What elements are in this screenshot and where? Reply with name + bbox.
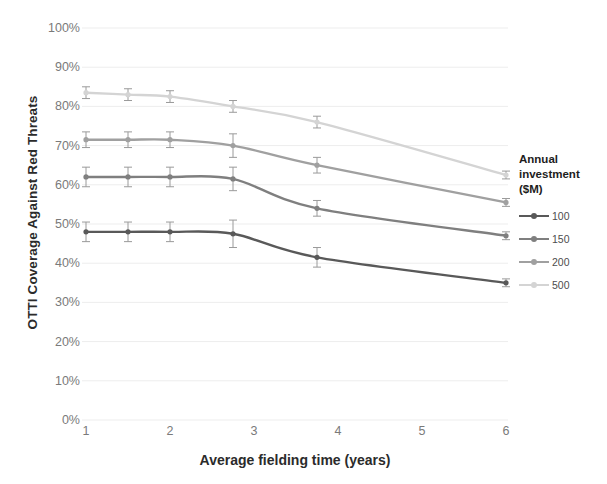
data-point bbox=[125, 229, 130, 234]
legend-item-label: 150 bbox=[549, 233, 570, 245]
legend-title-line-1: Annual bbox=[519, 152, 607, 167]
legend-marker-dot bbox=[531, 259, 537, 265]
data-point bbox=[314, 255, 319, 260]
data-point bbox=[167, 94, 172, 99]
legend-swatch bbox=[519, 256, 549, 268]
legend-item[interactable]: 200 bbox=[519, 250, 607, 273]
data-point bbox=[167, 229, 172, 234]
data-point bbox=[83, 229, 88, 234]
gridlines bbox=[82, 28, 508, 420]
series-line bbox=[86, 139, 506, 202]
data-point bbox=[230, 104, 235, 109]
series-200 bbox=[82, 132, 510, 206]
x-axis-tick-label: 5 bbox=[402, 424, 442, 438]
legend-item[interactable]: 100 bbox=[519, 204, 607, 227]
legend-swatch bbox=[519, 233, 549, 245]
line-chart: OTTI Coverage Against Red Threats 0%10%2… bbox=[0, 0, 607, 484]
legend-item-label: 200 bbox=[549, 256, 570, 268]
plot-area bbox=[0, 0, 607, 484]
legend-item[interactable]: 150 bbox=[519, 227, 607, 250]
series-100 bbox=[82, 220, 510, 287]
data-point bbox=[503, 233, 508, 238]
legend-marker-dot bbox=[531, 213, 537, 219]
legend-title-line-2: investment bbox=[519, 167, 607, 182]
data-point bbox=[503, 172, 508, 177]
data-point bbox=[230, 231, 235, 236]
data-point bbox=[83, 90, 88, 95]
legend-item-label: 100 bbox=[549, 210, 570, 222]
data-point bbox=[83, 137, 88, 142]
series-line bbox=[86, 231, 506, 282]
legend-swatch bbox=[519, 210, 549, 222]
legend-item-label: 500 bbox=[549, 279, 570, 291]
data-point bbox=[83, 174, 88, 179]
legend-marker-dot bbox=[531, 282, 537, 288]
legend-title: Annual investment ($M) bbox=[519, 152, 607, 197]
x-axis-tick-label: 1 bbox=[66, 424, 106, 438]
data-point bbox=[314, 119, 319, 124]
data-point bbox=[314, 163, 319, 168]
legend-swatch bbox=[519, 279, 549, 291]
legend-item-list: 100150200500 bbox=[519, 204, 607, 296]
data-point bbox=[230, 143, 235, 148]
legend-marker-dot bbox=[531, 236, 537, 242]
data-point bbox=[125, 92, 130, 97]
data-point bbox=[230, 176, 235, 181]
series-500 bbox=[82, 87, 510, 179]
x-axis-tick-label: 4 bbox=[318, 424, 358, 438]
x-axis-tick-label: 2 bbox=[150, 424, 190, 438]
series-150 bbox=[82, 167, 510, 240]
data-point bbox=[167, 137, 172, 142]
x-axis-tick-label: 6 bbox=[486, 424, 526, 438]
legend-item[interactable]: 500 bbox=[519, 273, 607, 296]
data-point bbox=[503, 280, 508, 285]
x-axis-tick-label: 3 bbox=[234, 424, 274, 438]
data-point bbox=[503, 200, 508, 205]
data-point bbox=[125, 174, 130, 179]
legend-title-line-3: ($M) bbox=[519, 182, 607, 197]
series-line bbox=[86, 93, 506, 175]
data-point bbox=[167, 174, 172, 179]
data-point bbox=[125, 137, 130, 142]
x-axis-title: Average fielding time (years) bbox=[80, 452, 510, 468]
data-point bbox=[314, 206, 319, 211]
legend: Annual investment ($M) 100150200500 bbox=[519, 152, 607, 296]
